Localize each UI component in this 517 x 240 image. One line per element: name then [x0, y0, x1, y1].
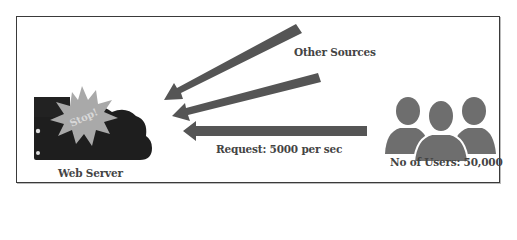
request-rate-label: Request: 5000 per sec — [216, 143, 342, 155]
users-group-icon — [385, 97, 496, 162]
arrow-left-icon — [183, 121, 367, 141]
users-count-label: No of Users: 50,000 — [390, 156, 503, 168]
other-sources-label: Other Sources — [294, 46, 376, 58]
web-server-label: Web Server — [58, 167, 123, 179]
